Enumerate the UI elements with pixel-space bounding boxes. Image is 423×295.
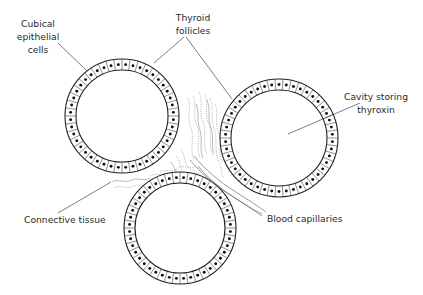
- cell-nucleus: [214, 191, 217, 194]
- cell-nucleus: [128, 223, 131, 226]
- cell-nucleus: [317, 100, 320, 103]
- cell-nucleus: [228, 237, 231, 240]
- cell-nucleus: [305, 182, 308, 185]
- cell-nucleus: [317, 173, 320, 176]
- cell-nucleus: [134, 202, 137, 205]
- cell-nucleus: [244, 95, 247, 98]
- cell-nucleus: [250, 91, 253, 94]
- cell-nucleus: [209, 267, 212, 270]
- cell-nucleus: [226, 244, 229, 247]
- cell-nucleus: [110, 165, 113, 168]
- cell-nucleus: [145, 160, 148, 163]
- cell-nucleus: [72, 97, 75, 100]
- cell-nucleus: [103, 66, 106, 69]
- cell-nucleus: [278, 190, 281, 193]
- cell-nucleus: [263, 85, 266, 88]
- cell-nucleus: [270, 190, 273, 193]
- cell-nucleus: [299, 186, 302, 189]
- cell-nucleus: [171, 126, 174, 129]
- cell-nucleus: [229, 230, 232, 233]
- cell-nucleus: [331, 133, 334, 136]
- cell-nucleus: [169, 133, 172, 136]
- cell-nucleus: [196, 179, 199, 182]
- cell-nucleus: [117, 166, 120, 169]
- follicle-right: [220, 79, 338, 197]
- cell-nucleus: [328, 119, 331, 122]
- label-line: thyroxin: [357, 104, 395, 115]
- cell-nucleus: [162, 84, 165, 87]
- label-line: Cubical: [21, 18, 55, 29]
- cell-nucleus: [214, 262, 217, 265]
- cell-nucleus: [90, 156, 93, 159]
- cell-nucleus: [124, 63, 127, 66]
- cell-nucleus: [227, 119, 230, 122]
- cell-nucleus: [169, 97, 172, 100]
- cell-nucleus: [134, 251, 137, 254]
- leader-thyroid-right: [186, 37, 232, 99]
- cell-nucleus: [139, 163, 142, 166]
- cell-nucleus: [70, 104, 73, 107]
- cell-nucleus: [162, 145, 165, 148]
- cell-nucleus: [151, 156, 154, 159]
- cell-nucleus: [203, 182, 206, 185]
- cell-nucleus: [238, 173, 241, 176]
- cell-nucleus: [250, 182, 253, 185]
- cell-nucleus: [229, 223, 232, 226]
- label-thyroid-follicles: Thyroid follicles: [175, 12, 211, 36]
- cell-nucleus: [166, 139, 169, 142]
- cell-nucleus: [96, 160, 99, 163]
- cell-nucleus: [148, 267, 151, 270]
- cell-nucleus: [129, 237, 132, 240]
- cell-nucleus: [189, 276, 192, 279]
- cell-nucleus: [225, 126, 228, 129]
- cell-nucleus: [228, 216, 231, 219]
- cell-nucleus: [234, 167, 237, 170]
- label-line: Cavity storing: [344, 91, 408, 102]
- cell-nucleus: [225, 147, 228, 150]
- cell-nucleus: [175, 176, 178, 179]
- cell-nucleus: [75, 90, 78, 93]
- cell-nucleus: [189, 177, 192, 180]
- cell-nucleus: [224, 140, 227, 143]
- cell-nucleus: [139, 66, 142, 69]
- cell-nucleus: [138, 257, 141, 260]
- cell-nucleus: [285, 84, 288, 87]
- label-line: cells: [28, 44, 49, 55]
- cell-nucleus: [182, 277, 185, 280]
- cell-nucleus: [203, 271, 206, 274]
- cell-nucleus: [325, 161, 328, 164]
- cell-nucleus: [328, 154, 331, 157]
- cell-nucleus: [157, 78, 160, 81]
- thyroid-follicle-diagram: Cubical epithelial cells Thyroid follicl…: [0, 0, 423, 295]
- cell-nucleus: [69, 118, 72, 121]
- cell-nucleus: [138, 196, 141, 199]
- label-blood-capillaries: Blood capillaries: [267, 213, 343, 224]
- cell-nucleus: [230, 112, 233, 115]
- cell-nucleus: [161, 274, 164, 277]
- cell-nucleus: [84, 151, 87, 154]
- cell-nucleus: [132, 165, 135, 168]
- cell-nucleus: [154, 182, 157, 185]
- cell-nucleus: [292, 85, 295, 88]
- cell-nucleus: [75, 139, 78, 142]
- cell-nucleus: [166, 90, 169, 93]
- cell-nucleus: [234, 106, 237, 109]
- cell-nucleus: [157, 151, 160, 154]
- leader-connective: [58, 182, 111, 213]
- cell-nucleus: [110, 64, 113, 67]
- cell-nucleus: [70, 126, 73, 129]
- cell-nucleus: [238, 100, 241, 103]
- cell-nucleus: [145, 69, 148, 72]
- cell-nucleus: [256, 87, 259, 90]
- cell-nucleus: [311, 178, 314, 181]
- cell-nucleus: [330, 147, 333, 150]
- cell-nucleus: [311, 95, 314, 98]
- cell-nucleus: [129, 216, 132, 219]
- cell-nucleus: [223, 202, 226, 205]
- cell-nucleus: [131, 244, 134, 247]
- cell-nucleus: [175, 277, 178, 280]
- cell-nucleus: [172, 118, 175, 121]
- cell-nucleus: [72, 133, 75, 136]
- cell-nucleus: [79, 145, 82, 148]
- cell-nucleus: [143, 262, 146, 265]
